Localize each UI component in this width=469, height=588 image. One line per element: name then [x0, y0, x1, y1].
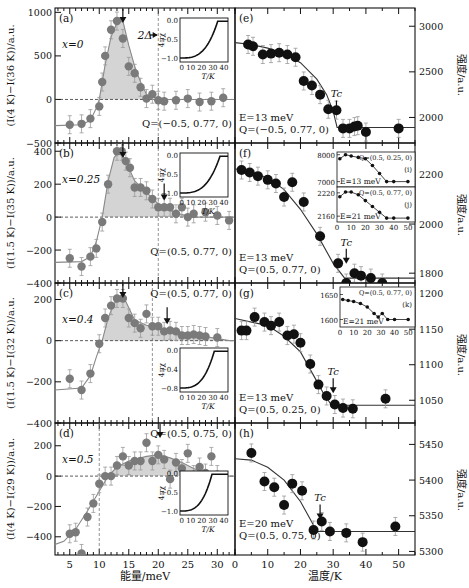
y-axis-label: (I(1.5 K)−I(32 K))/a.u.: [5, 297, 16, 409]
y-axis-label: (I(4 K)−I(29 K))/a.u.: [5, 438, 16, 540]
data-point: [77, 120, 85, 128]
susceptibility-inset: 0.0−0.4−0.80 10 20 30 40T/K4πχ: [157, 347, 228, 411]
data-point: [104, 180, 112, 188]
svg-text:10: 10: [349, 329, 358, 337]
svg-text:1600: 1600: [320, 317, 338, 325]
y-tick-label: 200: [34, 440, 52, 451]
energy-label: E=13 meV: [239, 112, 294, 123]
y-tick-label: 1800: [419, 268, 443, 279]
svg-text:Q=(0.5, 0.25, 0): Q=(0.5, 0.25, 0): [359, 154, 413, 162]
y-tick-label: 5450: [419, 439, 443, 450]
svg-text:8000: 8000: [317, 152, 335, 160]
data-point: [279, 192, 289, 202]
svg-text:10: 10: [347, 224, 356, 232]
svg-text:−1.0: −1.0: [161, 55, 178, 63]
y-tick-label: 0: [46, 471, 52, 482]
y-tick-label: −200: [26, 376, 52, 387]
data-point: [148, 457, 156, 465]
panel-d: 51015202530−400−2000200(d)x=0.5Q=(0.5, 0…: [5, 423, 235, 570]
y-tick-label: 5300: [419, 546, 443, 557]
y-tick-label: 5400: [419, 475, 443, 486]
y-tick-label: −200: [26, 245, 52, 256]
y-tick-label: 1150: [419, 324, 443, 335]
q-vector-label: Q=(0.5, 0.77, 0): [239, 264, 321, 275]
svg-text:T/K: T/K: [201, 72, 215, 81]
data-point: [250, 312, 260, 322]
data-point: [322, 391, 332, 401]
data-point: [172, 458, 180, 466]
energy-label: E=20 meV: [239, 518, 294, 529]
right-axis-label: 强度/a.u.: [456, 54, 468, 96]
data-point: [341, 528, 351, 538]
x-tick-label: 50: [392, 559, 405, 570]
data-point: [125, 62, 133, 70]
svg-text:(k): (k): [402, 301, 412, 309]
svg-text:4πχ: 4πχ: [157, 485, 166, 500]
svg-text:(j): (j): [404, 201, 412, 209]
y-tick-label: 500: [34, 50, 52, 61]
tc-label: Tc: [331, 88, 343, 99]
x-tick-label: 30: [327, 559, 340, 570]
data-point: [353, 121, 363, 131]
data-point: [348, 404, 358, 414]
svg-text:40: 40: [390, 329, 399, 337]
data-point: [287, 479, 297, 489]
data-point: [107, 26, 115, 34]
svg-text:1650: 1650: [320, 292, 338, 300]
y-tick-label: 2000: [419, 219, 443, 230]
data-point: [189, 210, 197, 218]
svg-text:E=21 meV: E=21 meV: [343, 317, 384, 326]
data-point: [297, 486, 307, 496]
data-point: [66, 121, 74, 129]
svg-text:T/K: T/K: [201, 525, 215, 534]
data-point: [77, 549, 85, 557]
data-point: [315, 90, 325, 100]
data-point: [95, 102, 103, 110]
arrow-icon: [330, 387, 337, 393]
y-tick-label: 0: [46, 335, 52, 346]
x-tick-label: 10: [93, 559, 106, 570]
svg-text:T/K: T/K: [201, 402, 215, 411]
svg-text:0 10 20 30 40: 0 10 20 30 40: [180, 199, 229, 207]
data-point: [119, 34, 127, 42]
data-point: [86, 369, 94, 377]
data-point: [289, 329, 299, 339]
data-point: [136, 457, 144, 465]
y-tick-label: 0: [46, 212, 52, 223]
svg-text:30: 30: [375, 224, 384, 232]
svg-text:4πχ: 4πχ: [157, 362, 166, 377]
x-axis-label-temperature: 温度/K: [308, 569, 343, 583]
data-point: [253, 171, 263, 181]
q-vector-label: Q=(0.5, 0.77, 0): [150, 246, 232, 257]
doping-label: x=0.4: [62, 313, 93, 325]
y-tick-label: −400: [26, 278, 52, 289]
q-vector-label: Q=(−0.5, 0.77, 0): [239, 124, 329, 135]
svg-text:30: 30: [376, 329, 385, 337]
y-tick-label: −400: [26, 418, 52, 429]
data-point: [136, 83, 144, 91]
svg-text:−0.8: −0.8: [161, 385, 178, 393]
data-point: [66, 375, 74, 383]
data-point: [259, 477, 269, 487]
data-point: [313, 380, 323, 390]
data-point: [98, 218, 106, 226]
y-axis-label: (I(1.5 K)−I(35 K))/a.u.: [5, 157, 16, 269]
doping-label: x=0: [62, 38, 84, 50]
svg-text:0 10 20 30 40: 0 10 20 30 40: [180, 394, 229, 402]
data-point: [101, 314, 109, 322]
svg-text:20: 20: [363, 329, 372, 337]
y-axis-label: (I(4 K)−I(36 K))/a.u.: [5, 24, 16, 126]
panel-b: −400−2000200400(b)x=0.25Q=(0.5, 0.77, 0)…: [5, 142, 235, 288]
panel-label: (f): [239, 147, 251, 159]
panel-e: 200025003000(e)E=13 meVQ=(−0.5, 0.77, 0)…: [235, 8, 443, 143]
data-point: [86, 114, 94, 122]
data-point: [83, 513, 91, 521]
svg-text:40: 40: [389, 224, 398, 232]
y-tick-label: 3000: [419, 21, 443, 32]
panel-label: (c): [59, 287, 73, 299]
y-tick-label: 1000: [28, 7, 52, 18]
data-point: [142, 187, 150, 195]
data-point: [358, 537, 368, 547]
svg-text:Q=(0.5, 0.77, 0): Q=(0.5, 0.77, 0): [359, 289, 413, 297]
panel-a: −50005001000(a)x=0Q=(−0.5, 0.77, 0)2Δ0.0…: [5, 7, 235, 149]
